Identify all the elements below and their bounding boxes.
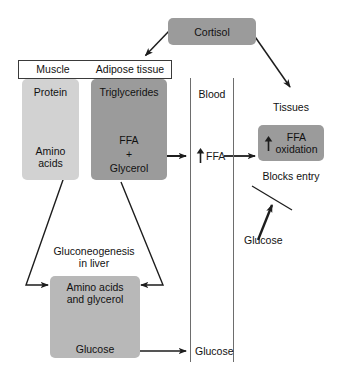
- node-cortisol-label: Cortisol: [194, 26, 230, 38]
- label-blood-glucose: Glucose: [195, 345, 234, 357]
- header-adipose-tissue: Adipose tissue: [87, 63, 173, 76]
- arrow-cortisol-to-tissues-panel: [146, 30, 171, 56]
- label-gluconeogenesis-line1: Gluconeogenesis: [53, 245, 134, 257]
- blood-column-left-divider: [190, 78, 191, 362]
- node-triglycerides: Triglycerides: [99, 86, 158, 98]
- tissue-compartment-header: Muscle Adipose tissue: [18, 60, 172, 79]
- node-protein: Protein: [34, 86, 67, 98]
- compartment-liver: Amino acids and glycerol Glucose: [50, 276, 140, 358]
- label-tissues: Tissues: [273, 101, 309, 113]
- node-ffa-oxidation: FFA oxidation: [258, 125, 324, 161]
- compartment-adipose-tissue: Triglycerides FFA + Glycerol: [91, 79, 167, 180]
- blood-ffa-group: FFA: [196, 147, 234, 165]
- node-plus-sign: +: [126, 148, 132, 160]
- label-ffa-oxidation-line2: oxidation: [275, 143, 317, 155]
- compartment-muscle: Protein Amino acids: [22, 79, 79, 180]
- label-blocks-entry: Blocks entry: [262, 170, 319, 182]
- arrow-cortisol-to-tissues: [251, 31, 290, 87]
- node-ffa: FFA: [119, 134, 138, 146]
- label-gluconeogenesis-line2: in liver: [79, 257, 109, 269]
- label-blood: Blood: [199, 88, 226, 100]
- node-cortisol: Cortisol: [168, 18, 256, 45]
- header-muscle: Muscle: [19, 63, 87, 76]
- up-arrow-icon-ffa: [196, 148, 205, 164]
- label-tissue-glucose: Glucose: [244, 234, 283, 246]
- blood-column-right-divider: [233, 78, 234, 362]
- up-arrow-icon-ffa-oxidation: [264, 136, 273, 152]
- label-liver-substrate-line2: and glycerol: [67, 293, 124, 305]
- diagram-canvas: Cortisol Muscle Adipose tissue Protein A…: [0, 0, 339, 388]
- block-slash-icon: [252, 186, 292, 210]
- label-blood-ffa: FFA: [206, 150, 225, 162]
- arrow-glycerol-to-liver: [121, 182, 163, 285]
- label-liver-substrate-line1: Amino acids: [66, 281, 123, 293]
- label-liver-glucose: Glucose: [76, 343, 115, 355]
- node-glycerol: Glycerol: [110, 162, 149, 174]
- label-ffa-oxidation-line1: FFA: [287, 131, 306, 143]
- node-amino-acids: Amino acids: [22, 145, 79, 169]
